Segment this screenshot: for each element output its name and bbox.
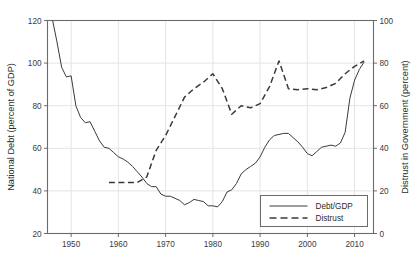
y2-tick-label: 20 xyxy=(380,187,390,196)
dual-axis-line-chart: 1950196019701980199020002010 20406080100… xyxy=(0,0,420,266)
x-tick-label: 1960 xyxy=(109,240,128,249)
y2-tick-label: 0 xyxy=(380,230,385,239)
legend-box xyxy=(261,196,368,227)
y2-tick-label: 80 xyxy=(380,59,390,68)
y-tick-label: 100 xyxy=(28,59,42,68)
y-tick-label: 120 xyxy=(28,17,42,26)
chart-figure: 1950196019701980199020002010 20406080100… xyxy=(0,0,420,266)
x-tick-label: 1990 xyxy=(251,240,270,249)
legend-label-distrust: Distrust xyxy=(316,214,344,223)
x-tick-label: 2000 xyxy=(298,240,317,249)
x-tick-label: 1950 xyxy=(62,240,81,249)
y2-tick-label: 40 xyxy=(380,144,390,153)
y-tick-label: 80 xyxy=(32,102,42,111)
y-tick-label: 40 xyxy=(32,187,42,196)
x-tick-label: 1980 xyxy=(204,240,223,249)
y2-tick-label: 60 xyxy=(380,102,390,111)
y-axis-title: National Debt (percent of GDP) xyxy=(6,63,16,191)
y2-axis-title: Distrust in Government (percent) xyxy=(400,60,410,193)
legend-label-debt-gdp: Debt/GDP xyxy=(316,202,354,211)
x-tick-label: 2010 xyxy=(345,240,364,249)
y2-tick-label: 100 xyxy=(380,17,394,26)
y-tick-label: 60 xyxy=(32,144,42,153)
y-tick-label: 20 xyxy=(32,230,42,239)
chart-legend: Debt/GDPDistrust xyxy=(261,196,368,227)
x-tick-label: 1970 xyxy=(157,240,176,249)
